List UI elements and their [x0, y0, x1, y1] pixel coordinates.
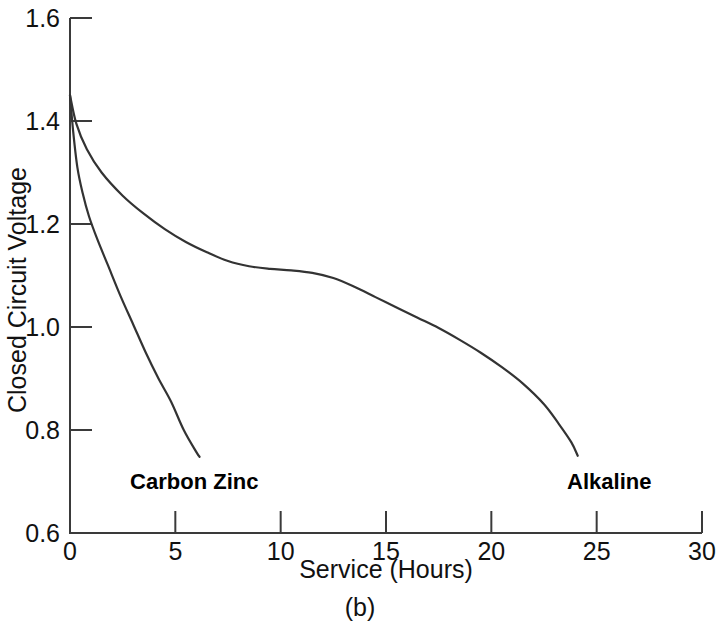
y-tick-label: 1.4 [25, 107, 60, 135]
x-axis-tick-marks [70, 511, 702, 533]
y-axis-title: Closed Circuit Voltage [3, 167, 31, 413]
figure-container: 0.60.81.01.21.41.6 051015202530 Carbon Z… [0, 0, 720, 627]
x-tick-label: 30 [688, 537, 716, 565]
x-tick-label: 20 [477, 537, 505, 565]
series-label-alkaline: Alkaline [567, 469, 651, 494]
chart-plot: 0.60.81.01.21.41.6 051015202530 Carbon Z… [0, 0, 720, 627]
x-tick-label: 25 [583, 537, 611, 565]
series-annotation-labels: Carbon ZincAlkaline [130, 469, 651, 494]
data-series-group [70, 95, 578, 457]
series-curve-alkaline [70, 95, 578, 456]
y-tick-label: 0.8 [25, 416, 60, 444]
x-tick-label: 5 [168, 537, 182, 565]
y-tick-label: 0.6 [25, 519, 60, 547]
series-label-carbon-zinc: Carbon Zinc [130, 469, 258, 494]
figure-caption: (b) [345, 593, 376, 621]
y-tick-label: 1.6 [25, 4, 60, 32]
x-tick-label: 0 [63, 537, 77, 565]
x-axis-title: Service (Hours) [299, 555, 473, 583]
series-curve-carbon-zinc [70, 95, 200, 457]
x-tick-label: 10 [267, 537, 295, 565]
axis-frame [70, 18, 702, 533]
y-axis-tick-marks [70, 18, 92, 533]
